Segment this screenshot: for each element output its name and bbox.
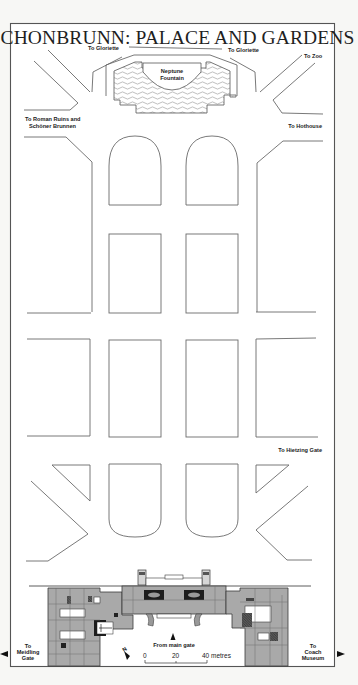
label-to-hothouse: To Hothouse — [288, 123, 322, 129]
svg-text:20: 20 — [172, 652, 180, 659]
label-meidling-3: Gate — [22, 655, 34, 661]
label-to-gloriette-right: To Gloriette — [228, 47, 259, 53]
label-schoner-brunnen: Schöner Brunnen — [29, 123, 77, 129]
arrow-left-icon — [0, 651, 8, 657]
map-title: SCHONBRUNN: PALACE AND GARDENS — [0, 27, 354, 48]
arched-bed-right — [186, 136, 238, 205]
bed-centre-left-row2 — [109, 234, 161, 313]
arched-bed-left — [109, 136, 161, 205]
neptune-fountain: Neptune Fountain — [114, 62, 236, 113]
arrow-right-icon — [337, 651, 345, 657]
label-coach-3: Museum — [302, 655, 325, 661]
label-to-zoo: To Zoo — [304, 53, 323, 59]
schonbrunn-map: SCHONBRUNN: PALACE AND GARDENS Neptune F… — [0, 0, 358, 685]
svg-text:0: 0 — [143, 652, 147, 659]
label-from-main-gate: From main gate — [153, 642, 195, 648]
label-to-gloriette-left: To Gloriette — [88, 45, 119, 51]
bed-centre-right-row3 — [186, 340, 238, 437]
svg-text:40 metres: 40 metres — [202, 652, 232, 659]
label-roman-ruins: To Roman Ruins and — [25, 116, 81, 122]
bed-centre-right-row2 — [186, 234, 238, 313]
neptune-fountain-label: Neptune — [161, 68, 183, 74]
neptune-fountain-label-2: Fountain — [160, 75, 184, 81]
label-to-hietzing-gate: To Hietzing Gate — [278, 447, 322, 453]
bed-centre-left-row3 — [109, 340, 161, 437]
